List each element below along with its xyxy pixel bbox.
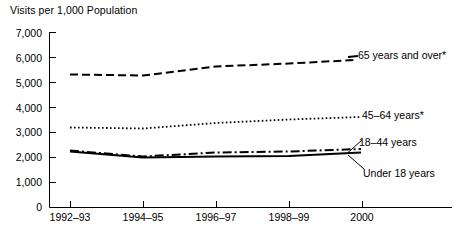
leader-line-under-18: [348, 155, 364, 169]
series-line-65-and-over: [70, 60, 355, 76]
axis-lines: [50, 32, 453, 208]
chart-plot-area: [0, 0, 458, 238]
leader-line-18-44: [348, 140, 362, 153]
y-axis-ticks: [50, 33, 57, 183]
line-chart: Visits per 1,000 Population 7,000 6,000 …: [0, 0, 458, 238]
leader-line-65-and-over: [348, 56, 358, 57]
x-axis-ticks: [71, 201, 363, 208]
series-line-under-18: [70, 152, 361, 158]
series-line-45-64: [70, 117, 360, 129]
